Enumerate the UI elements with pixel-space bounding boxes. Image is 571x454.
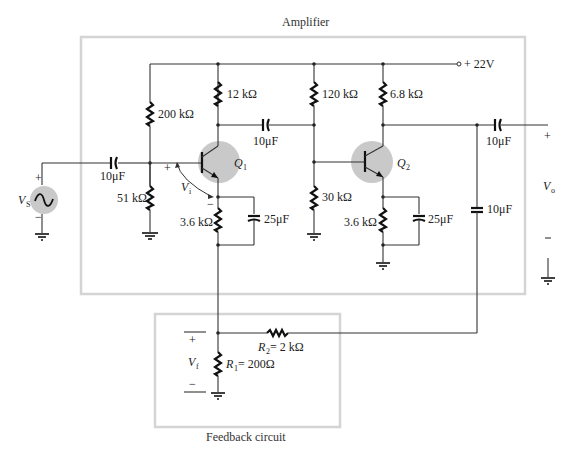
- feedback-title: Feedback circuit: [206, 430, 286, 444]
- q2-sub: 2: [406, 163, 410, 172]
- resistor-51k-label: 51 kΩ: [117, 191, 147, 205]
- q2-emitter-resistor-label: 3.6 kΩ: [344, 215, 377, 229]
- vo-sub: o: [551, 186, 555, 195]
- q1-label: Q: [234, 156, 243, 170]
- resistor-120k-label: 120 kΩ: [322, 87, 358, 101]
- q1-emitter-resistor-label: 3.6 kΩ: [180, 215, 213, 229]
- q2-emitter-network: [376, 195, 425, 269]
- vf-sub: f: [196, 362, 199, 371]
- r2-value: = 2 kΩ: [270, 340, 304, 354]
- output-network: [383, 119, 548, 131]
- amplifier-title: Amplifier: [282, 15, 329, 29]
- vf-plus: +: [189, 333, 196, 347]
- q2-bias-network: [307, 64, 321, 240]
- vi-sub: i: [189, 187, 192, 196]
- feedback-capacitor-label: 10μF: [487, 202, 512, 216]
- output-capacitor-label: 10μF: [486, 134, 511, 148]
- source-minus: −: [35, 210, 42, 224]
- resistor-30k-label: 30 kΩ: [322, 190, 352, 204]
- input-capacitor: [111, 157, 117, 169]
- coupling-capacitor-label: 10μF: [253, 134, 278, 148]
- resistor-6k8-label: 6.8 kΩ: [390, 87, 423, 101]
- vf-minus: −: [189, 377, 196, 391]
- q2-label: Q: [397, 156, 406, 170]
- r2-label: R: [257, 340, 266, 354]
- supply-rail: [150, 62, 461, 66]
- resistor-12k-label: 12 kΩ: [227, 87, 257, 101]
- q1-emitter-capacitor-label: 25μF: [264, 212, 289, 226]
- input-capacitor-label: 10μF: [100, 169, 125, 183]
- supply-voltage-label: + 22V: [464, 57, 495, 71]
- q2-emitter-capacitor-label: 25μF: [428, 212, 453, 226]
- r1-value: = 200Ω: [238, 357, 275, 371]
- q1-sub: 1: [243, 163, 247, 172]
- q1-emitter-network: [215, 195, 260, 333]
- amplifier-block-border: [81, 37, 525, 294]
- r1-label: R: [225, 357, 234, 371]
- resistor-200k-label: 200 kΩ: [158, 107, 194, 121]
- coupling-capacitor: [218, 119, 314, 131]
- vo-output: [541, 238, 555, 284]
- transistor-q1: [150, 64, 240, 197]
- vo-plus: +: [544, 129, 551, 143]
- vi-minus: −: [207, 197, 214, 211]
- source-sub: S: [26, 200, 30, 209]
- source-plus: +: [35, 171, 42, 185]
- circuit-diagram: Amplifier Feedback circuit + 22V 200 kΩ …: [0, 0, 571, 454]
- vi-plus: +: [164, 161, 171, 175]
- transistor-q2: [314, 106, 393, 197]
